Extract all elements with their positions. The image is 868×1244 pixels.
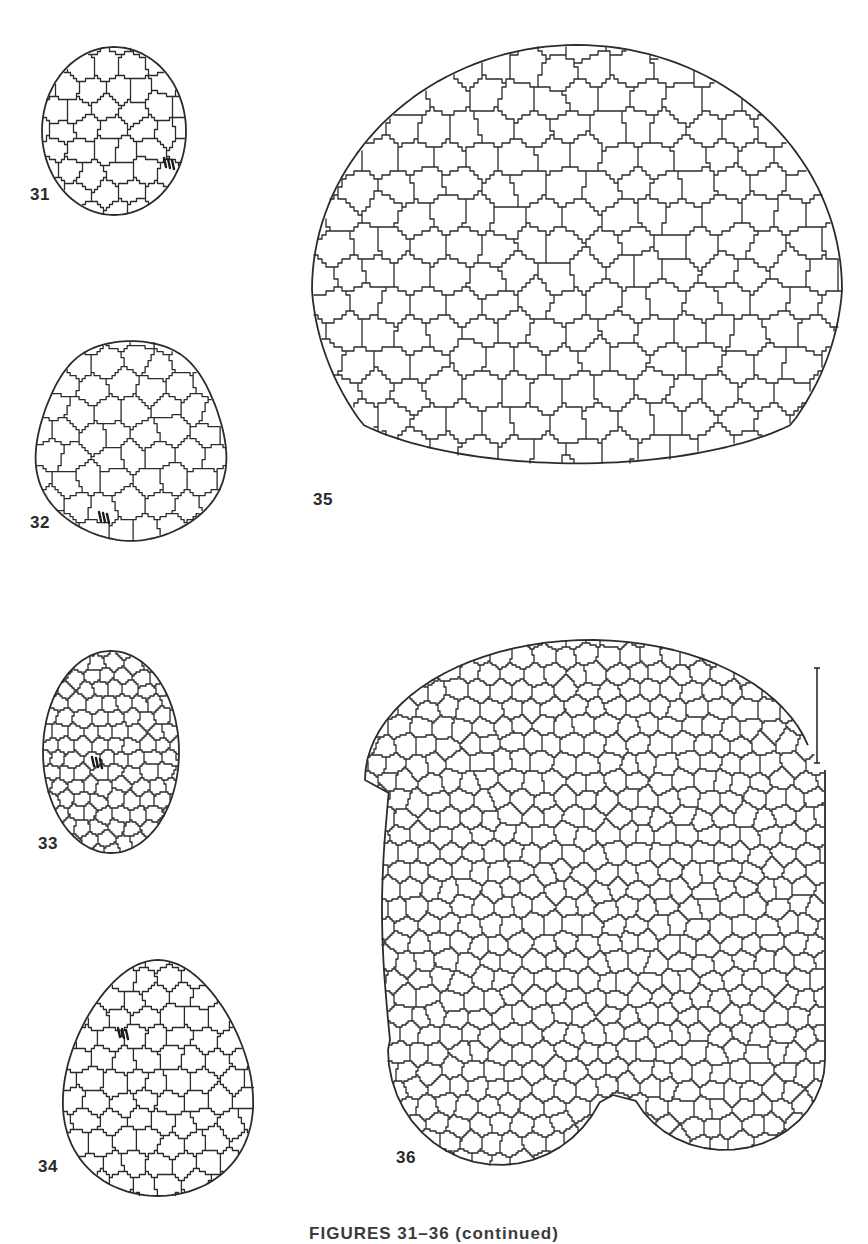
figure-outline — [63, 960, 253, 1196]
figure-label-35: 35 — [313, 490, 333, 510]
figure-35 — [312, 45, 842, 463]
figure-31 — [42, 47, 186, 215]
mitotic-figure — [168, 159, 170, 168]
mitotic-figure — [99, 512, 101, 521]
cell-walls — [314, 47, 842, 463]
cell-walls — [44, 652, 178, 852]
mitotic-figure — [107, 514, 109, 523]
cell-walls — [44, 49, 185, 214]
mitotic-figure — [118, 1028, 120, 1037]
mitotic-figure — [172, 160, 174, 169]
figure-label-36: 36 — [396, 1148, 416, 1168]
figure-outline — [312, 45, 842, 463]
figure-34 — [63, 960, 254, 1196]
figure-label-31: 31 — [30, 185, 50, 205]
mitotic-figure — [126, 1030, 128, 1039]
cell-walls — [64, 962, 253, 1196]
cell-walls — [366, 641, 824, 1165]
figure-outline — [42, 47, 186, 215]
figure-33 — [43, 651, 179, 853]
figure-36 — [365, 640, 825, 1165]
figure-32 — [36, 341, 227, 541]
figure-label-34: 34 — [38, 1157, 58, 1177]
figure-label-33: 33 — [38, 834, 58, 854]
plate-caption: FIGURES 31–36 (continued) — [0, 1224, 868, 1244]
mitotic-figure — [92, 757, 94, 766]
mitotic-figure — [103, 513, 105, 522]
figure-label-32: 32 — [30, 513, 50, 533]
